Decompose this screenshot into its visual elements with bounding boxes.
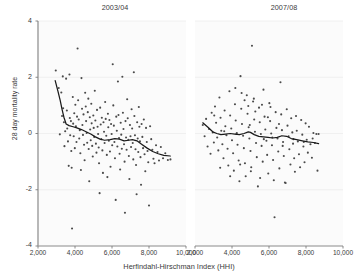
figure-scatter-hhi-mortality: 2003/04 2007/08 28 day mortality rate He… bbox=[0, 0, 358, 280]
panel-left bbox=[36, 21, 187, 249]
panel-right bbox=[195, 21, 343, 249]
plot-canvas bbox=[0, 0, 358, 280]
